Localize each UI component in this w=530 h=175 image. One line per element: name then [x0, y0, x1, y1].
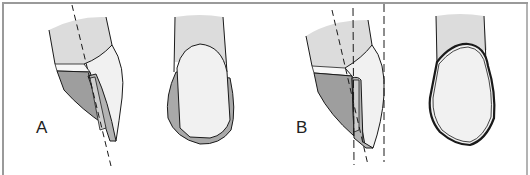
panel-a-facial-tooth: [167, 15, 233, 144]
panel-label-b: B: [296, 118, 307, 138]
figure-frame: A B: [0, 0, 530, 175]
panel-b-lateral-tooth: [306, 4, 384, 165]
panel-a-lateral-tooth: [49, 5, 123, 166]
panel-b-facial-tooth: [430, 14, 495, 145]
panel-label-a: A: [36, 118, 47, 138]
dental-diagram: [0, 0, 530, 175]
